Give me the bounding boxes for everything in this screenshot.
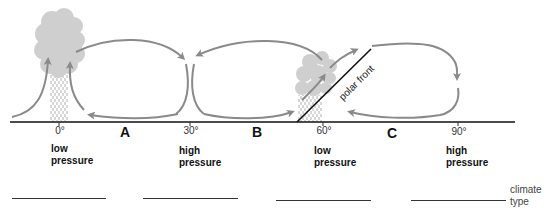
- equator-cloud: [34, 8, 85, 121]
- circulation-arrows: [12, 40, 458, 118]
- arrow-front-upper: [330, 50, 356, 68]
- answer-blank-30[interactable]: [143, 198, 238, 199]
- pressure-word: pressure: [314, 157, 356, 169]
- arrow-hadley-top: [76, 40, 183, 58]
- pressure-label-30: high pressure: [179, 145, 221, 169]
- pressure-word: high: [446, 145, 488, 157]
- answer-blank-0[interactable]: [12, 198, 106, 199]
- answer-blank-90[interactable]: [411, 200, 506, 201]
- pressure-word: high: [179, 145, 221, 157]
- climate-word: climate: [510, 184, 542, 196]
- latitude-90: 90°: [451, 126, 466, 137]
- arrow-polar-descend: [350, 88, 458, 118]
- latitude-0: 0°: [55, 125, 65, 136]
- latitude-30: 30°: [183, 125, 198, 136]
- type-word: type: [510, 196, 542, 208]
- arrow-hadley-return: [90, 114, 178, 118]
- pressure-word: pressure: [179, 157, 221, 169]
- arrow-ferrel-descend: [192, 64, 204, 114]
- arrow-polar-top: [372, 43, 457, 78]
- arrow-ferrel-surface: [204, 112, 292, 118]
- pressure-label-60: low pressure: [314, 145, 356, 169]
- arrow-hadley-descend: [176, 64, 188, 114]
- zone-b: B: [252, 124, 262, 140]
- pressure-word: pressure: [446, 157, 488, 169]
- zone-a: A: [120, 124, 130, 140]
- pressure-word: pressure: [51, 155, 93, 167]
- pressure-label-0: low pressure: [51, 143, 93, 167]
- pressure-word: low: [314, 145, 356, 157]
- circulation-diagram: polar front: [0, 0, 549, 208]
- pressure-word: low: [51, 143, 93, 155]
- polar-front-label: polar front: [337, 63, 377, 103]
- latitude-60: 60°: [316, 125, 331, 136]
- climate-type-label: climate type: [510, 184, 542, 208]
- zone-c: C: [387, 125, 397, 141]
- answer-blank-60[interactable]: [276, 200, 371, 201]
- pressure-label-90: high pressure: [446, 145, 488, 169]
- arrow-ferrel-top: [198, 41, 322, 60]
